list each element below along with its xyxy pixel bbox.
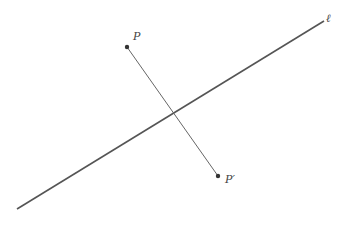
label-p: P [132, 30, 141, 43]
point-p [125, 45, 129, 49]
reflection-diagram: P P′ ℓ [0, 0, 341, 228]
segment-p-p-prime [127, 47, 218, 176]
label-line-l: ℓ [326, 12, 331, 25]
label-p-prime: P′ [224, 173, 235, 186]
line-l [17, 21, 324, 209]
point-p-prime [216, 174, 220, 178]
